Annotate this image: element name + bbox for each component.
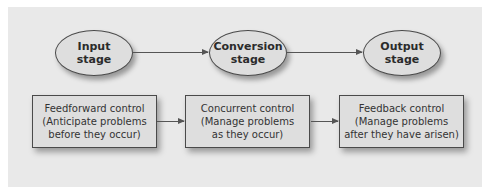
arrow-input-to-conversion (133, 52, 208, 53)
arrow-feedforward-to-concurrent (157, 121, 184, 122)
output-stage-node: Outputstage (363, 30, 441, 76)
feedforward-control-box: Feedforward control (Anticipate problems… (32, 95, 157, 148)
output-stage-label: Output (380, 40, 423, 53)
feedforward-desc-2: before they occur) (48, 128, 140, 141)
concurrent-control-box: Concurrent control (Manage problems as t… (185, 95, 310, 148)
feedforward-title: Feedforward control (44, 102, 144, 115)
concurrent-desc-1: (Manage problems (201, 115, 294, 128)
arrow-concurrent-to-feedback (311, 121, 338, 122)
feedback-control-box: Feedback control (Manage problems after … (339, 95, 464, 148)
feedforward-desc-1: (Anticipate problems (42, 115, 146, 128)
conversion-stage-label: Conversion (213, 40, 282, 53)
feedback-title: Feedback control (359, 102, 444, 115)
conversion-stage-sublabel: stage (213, 53, 282, 66)
input-stage-label: Input (77, 40, 112, 53)
conversion-stage-node: Conversionstage (209, 30, 287, 76)
input-stage-node: Inputstage (55, 30, 133, 76)
feedback-desc-1: (Manage problems (355, 115, 448, 128)
output-stage-sublabel: stage (380, 53, 423, 66)
feedback-desc-2: after they have arisen) (344, 128, 459, 141)
concurrent-title: Concurrent control (201, 102, 294, 115)
concurrent-desc-2: as they occur) (212, 128, 284, 141)
input-stage-sublabel: stage (77, 53, 112, 66)
arrow-conversion-to-output (287, 52, 362, 53)
